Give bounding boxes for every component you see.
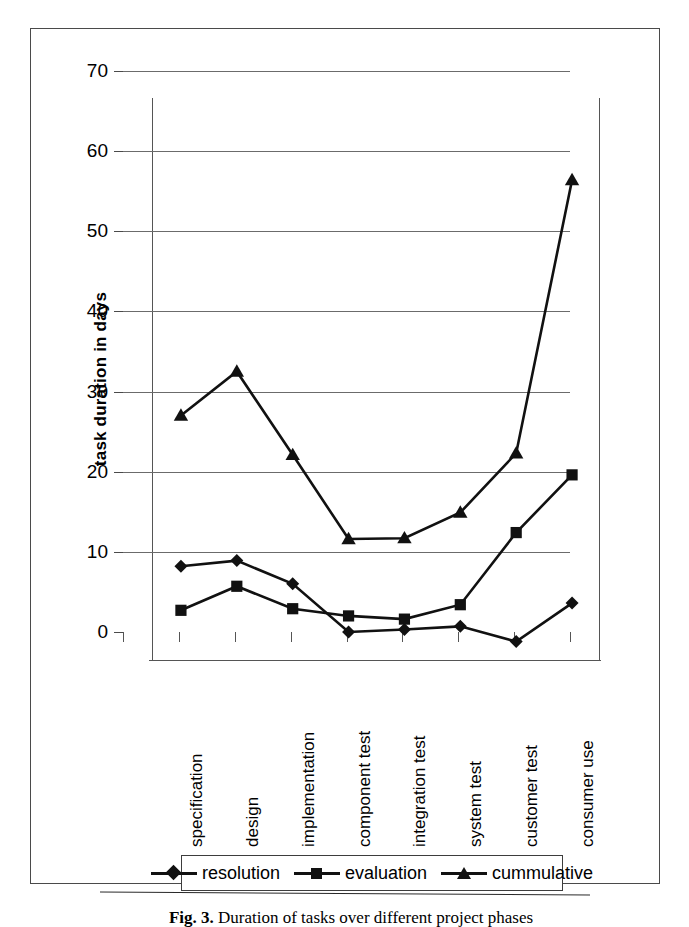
chart-legend: resolutionevaluationcummulative xyxy=(181,855,563,891)
series-plot xyxy=(31,29,689,927)
data-point-marker xyxy=(230,554,243,567)
triangle-marker-icon xyxy=(441,865,487,881)
legend-label: cummulative xyxy=(492,864,593,882)
caption-text: Duration of tasks over different project… xyxy=(218,908,533,927)
data-point-marker xyxy=(230,364,244,376)
figure-caption: Fig. 3. Duration of tasks over different… xyxy=(116,908,586,927)
diamond-marker-icon xyxy=(151,865,197,881)
legend-entry-resolution[interactable]: resolution xyxy=(151,864,280,882)
caption-figure-number: Fig. 3. xyxy=(169,908,214,927)
series-resolution xyxy=(174,554,578,648)
data-point-marker xyxy=(566,469,577,480)
data-point-marker xyxy=(174,560,187,573)
square-marker-icon xyxy=(294,865,340,881)
data-point-marker xyxy=(343,610,354,621)
data-point-marker xyxy=(231,581,242,592)
figure-frame: task duration in days 010203040506070 sp… xyxy=(30,28,660,884)
legend-entry-evaluation[interactable]: evaluation xyxy=(294,864,427,882)
series-line xyxy=(181,561,572,642)
data-point-marker xyxy=(398,623,411,636)
series-line xyxy=(181,180,572,539)
data-point-marker xyxy=(455,599,466,610)
legend-label: resolution xyxy=(202,864,280,882)
data-point-marker xyxy=(399,614,410,625)
data-point-marker xyxy=(454,620,467,633)
series-evaluation xyxy=(175,469,577,624)
series-cummulative xyxy=(174,173,580,544)
data-point-marker xyxy=(287,603,298,614)
data-point-marker xyxy=(509,446,523,458)
data-point-marker xyxy=(175,605,186,616)
legend-entry-cummulative[interactable]: cummulative xyxy=(441,864,593,882)
series-line xyxy=(181,475,572,619)
data-point-marker xyxy=(565,173,579,185)
legend-label: evaluation xyxy=(345,864,427,882)
data-point-marker xyxy=(511,527,522,538)
